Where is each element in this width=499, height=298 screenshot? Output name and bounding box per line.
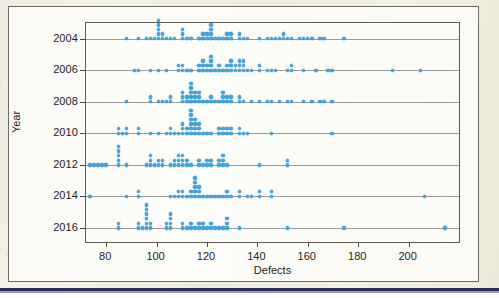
data-point: [165, 37, 168, 40]
data-point: [165, 132, 168, 135]
data-point: [189, 122, 192, 125]
data-point: [177, 190, 180, 193]
data-point: [193, 226, 196, 229]
y-tick-label-2014: 2014: [53, 189, 78, 201]
data-point: [161, 37, 164, 40]
data-point: [234, 64, 237, 67]
paper-speckle: [0, 84, 1, 85]
data-point: [165, 100, 168, 103]
data-point: [266, 69, 269, 72]
data-point: [258, 64, 261, 67]
data-point: [189, 195, 192, 198]
data-point: [145, 203, 148, 206]
data-point: [229, 32, 232, 35]
data-point: [145, 37, 148, 40]
y-tick-label-2004: 2004: [53, 32, 78, 44]
data-point: [242, 132, 245, 135]
data-point: [217, 159, 220, 162]
data-point: [274, 69, 277, 72]
data-point: [177, 132, 180, 135]
data-point: [193, 176, 196, 179]
data-point: [149, 159, 152, 162]
data-point: [221, 132, 224, 135]
y-tick-label-2008: 2008: [53, 95, 78, 107]
data-point: [225, 195, 228, 198]
data-point: [189, 222, 192, 225]
paper-speckle: [0, 36, 1, 37]
data-point: [229, 37, 232, 40]
data-point: [165, 222, 168, 225]
paper-speckle: [492, 158, 493, 159]
data-point: [201, 69, 204, 72]
data-point: [197, 127, 200, 130]
data-point: [181, 28, 184, 31]
data-point: [177, 163, 180, 166]
data-point: [181, 222, 184, 225]
data-point: [177, 69, 180, 72]
data-point: [173, 132, 176, 135]
data-point: [193, 195, 196, 198]
data-point: [225, 32, 228, 35]
data-point: [117, 145, 120, 148]
data-point: [209, 132, 212, 135]
data-point: [221, 163, 224, 166]
data-point: [282, 32, 285, 35]
data-point: [181, 163, 184, 166]
data-point: [310, 37, 313, 40]
data-point: [189, 118, 192, 121]
data-point: [443, 226, 446, 229]
data-point: [88, 163, 91, 166]
data-point: [125, 37, 128, 40]
data-point: [181, 64, 184, 67]
data-point: [117, 163, 120, 166]
data-point: [242, 59, 245, 62]
data-point: [169, 132, 172, 135]
data-point: [209, 23, 212, 26]
data-point: [197, 91, 200, 94]
data-point: [201, 59, 204, 62]
data-point: [125, 132, 128, 135]
data-point: [137, 69, 140, 72]
y-axis-title: Year: [10, 111, 22, 133]
data-point: [137, 127, 140, 130]
data-point: [217, 195, 220, 198]
data-point: [157, 37, 160, 40]
data-point: [181, 226, 184, 229]
data-point: [181, 69, 184, 72]
data-point: [169, 95, 172, 98]
data-point: [286, 159, 289, 162]
data-point: [197, 195, 200, 198]
data-point: [185, 226, 188, 229]
data-point: [286, 226, 289, 229]
data-point: [193, 95, 196, 98]
data-point: [330, 69, 333, 72]
data-point: [238, 95, 241, 98]
data-point: [169, 100, 172, 103]
data-point: [246, 195, 249, 198]
data-point: [225, 64, 228, 67]
data-point: [173, 195, 176, 198]
paper-speckle: [492, 93, 493, 94]
data-point: [225, 226, 228, 229]
data-point: [181, 127, 184, 130]
data-point: [221, 37, 224, 40]
data-point: [149, 226, 152, 229]
x-tick-mark-200: [409, 242, 410, 247]
data-point: [290, 69, 293, 72]
data-point: [137, 195, 140, 198]
data-point: [318, 37, 321, 40]
data-point: [209, 64, 212, 67]
data-point: [149, 100, 152, 103]
data-point: [205, 159, 208, 162]
data-point: [225, 127, 228, 130]
data-point: [205, 37, 208, 40]
data-point: [391, 69, 394, 72]
data-point: [189, 86, 192, 89]
x-tick-mark-120: [207, 242, 208, 247]
data-point: [137, 222, 140, 225]
data-point: [282, 37, 285, 40]
data-point: [229, 64, 232, 67]
data-point: [213, 100, 216, 103]
x-tick-mark-140: [257, 242, 258, 247]
data-point: [213, 69, 216, 72]
